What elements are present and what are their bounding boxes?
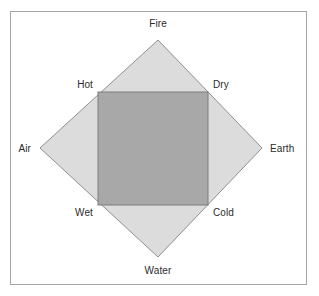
vertex-label-earth: Earth: [270, 143, 294, 154]
corner-label-cold: Cold: [213, 207, 234, 218]
qualities-square-shape[interactable]: [98, 92, 208, 205]
vertex-label-water: Water: [145, 265, 172, 276]
corner-label-hot: Hot: [77, 79, 93, 90]
vertex-label-air: Air: [18, 143, 31, 154]
corner-label-dry: Dry: [213, 79, 229, 90]
vertex-label-fire: Fire: [149, 18, 167, 29]
corner-label-wet: Wet: [75, 207, 93, 218]
